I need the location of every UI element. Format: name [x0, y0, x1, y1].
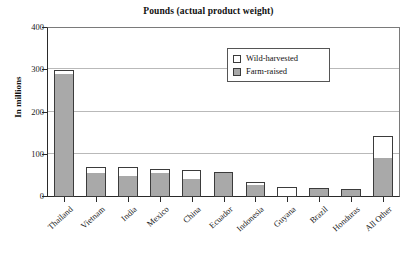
x-axis-tick-label: All Other — [335, 204, 394, 257]
bar-stack[interactable] — [277, 187, 297, 197]
bar-stack[interactable] — [373, 136, 393, 197]
y-axis-tick-label: 300 — [14, 65, 44, 74]
bar-group — [48, 28, 399, 197]
legend-item-farm-raised: Farm-raised — [233, 65, 324, 78]
bar-slot — [373, 28, 393, 197]
x-axis-tick-label: Thailand — [16, 204, 75, 257]
bar-stack[interactable] — [341, 189, 361, 197]
bar-stack[interactable] — [182, 170, 202, 197]
bar-stack[interactable] — [86, 167, 106, 197]
bar-segment-farm-raised[interactable] — [118, 176, 138, 197]
x-axis-tick-mark — [128, 197, 129, 202]
y-axis-tick-mark — [42, 154, 47, 155]
bar-slot — [150, 28, 170, 197]
y-axis-tick-mark — [42, 196, 47, 197]
y-axis-tick-label: 400 — [14, 23, 44, 32]
x-axis-tick-mark — [287, 197, 288, 202]
x-axis-tick-label: India — [80, 204, 139, 257]
x-axis-tick-mark — [192, 197, 193, 202]
x-axis-tick-label: Brazil — [271, 204, 330, 257]
bar-stack[interactable] — [246, 182, 266, 197]
bar-segment-wild-harvested[interactable] — [277, 187, 297, 197]
legend-swatch-farm-raised — [233, 68, 241, 76]
x-axis-tick-label: Ecuador — [175, 204, 234, 257]
x-axis-tick-label: Vietnam — [48, 204, 107, 257]
bar-segment-farm-raised[interactable] — [150, 173, 170, 197]
y-axis-tick-label: 200 — [14, 108, 44, 117]
bar-segment-farm-raised[interactable] — [341, 189, 361, 197]
x-axis-tick-mark — [319, 197, 320, 202]
y-axis-tick-mark — [42, 69, 47, 70]
legend-swatch-wild-harvested — [233, 55, 241, 63]
x-axis-tick-mark — [96, 197, 97, 202]
bar-stack[interactable] — [309, 188, 329, 197]
chart-legend: Wild-harvested Farm-raised — [227, 48, 330, 82]
x-axis-tick-mark — [383, 197, 384, 202]
bar-stack[interactable] — [118, 167, 138, 197]
bar-stack[interactable] — [54, 70, 74, 197]
x-axis-tick-label: Indonesia — [207, 204, 266, 257]
bar-segment-wild-harvested[interactable] — [118, 167, 138, 176]
y-axis-tick-label: 0 — [14, 192, 44, 201]
x-axis-tick-label: China — [144, 204, 203, 257]
chart-container: Pounds (actual product weight) In millio… — [0, 0, 417, 257]
bar-segment-farm-raised[interactable] — [54, 74, 74, 197]
bar-segment-farm-raised[interactable] — [182, 179, 202, 197]
bar-segment-farm-raised[interactable] — [86, 173, 106, 197]
y-axis-tick-mark — [42, 112, 47, 113]
bar-slot — [341, 28, 361, 197]
legend-label-wild-harvested: Wild-harvested — [246, 54, 298, 63]
x-axis-tick-mark — [351, 197, 352, 202]
bar-stack[interactable] — [214, 172, 234, 197]
bar-segment-farm-raised[interactable] — [373, 158, 393, 197]
bar-segment-farm-raised[interactable] — [246, 185, 266, 197]
bar-segment-farm-raised[interactable] — [214, 172, 234, 197]
x-axis-tick-label: Honduras — [303, 204, 362, 257]
x-axis-tick-mark — [224, 197, 225, 202]
legend-item-wild-harvested: Wild-harvested — [233, 52, 324, 65]
x-axis-tick-label: Mexico — [112, 204, 171, 257]
bar-slot — [54, 28, 74, 197]
chart-title: Pounds (actual product weight) — [0, 6, 417, 16]
bar-slot — [182, 28, 202, 197]
x-axis-tick-mark — [160, 197, 161, 202]
bar-slot — [86, 28, 106, 197]
bar-segment-wild-harvested[interactable] — [182, 170, 202, 178]
bar-slot — [118, 28, 138, 197]
legend-label-farm-raised: Farm-raised — [246, 67, 287, 76]
x-axis-tick-mark — [255, 197, 256, 202]
y-axis-tick-label: 100 — [14, 150, 44, 159]
bar-segment-wild-harvested[interactable] — [373, 136, 393, 158]
bar-stack[interactable] — [150, 169, 170, 197]
y-axis-tick-mark — [42, 27, 47, 28]
bar-segment-farm-raised[interactable] — [309, 188, 329, 197]
x-axis-tick-mark — [64, 197, 65, 202]
